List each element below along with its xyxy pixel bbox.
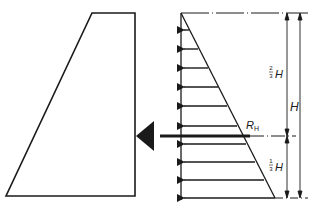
svg-text:1: 1	[269, 158, 273, 164]
svg-text:2: 2	[269, 65, 273, 71]
svg-text:H: H	[254, 125, 259, 132]
pressure-arrows	[184, 30, 275, 198]
svg-text:3: 3	[269, 166, 273, 172]
dam-section	[6, 13, 135, 196]
label-resultant: R H	[246, 119, 259, 132]
svg-text:R: R	[246, 119, 254, 131]
svg-text:H: H	[290, 100, 299, 114]
svg-text:H: H	[275, 68, 283, 80]
label-total-h: H	[290, 100, 299, 114]
svg-text:H: H	[275, 161, 283, 173]
svg-text:3: 3	[269, 73, 273, 79]
label-one-third-h: 1 3 H	[269, 158, 283, 173]
dam-pressure-diagram: 2 3 H H R H 1 3 H	[0, 0, 321, 214]
label-two-thirds-h: 2 3 H	[269, 65, 283, 80]
